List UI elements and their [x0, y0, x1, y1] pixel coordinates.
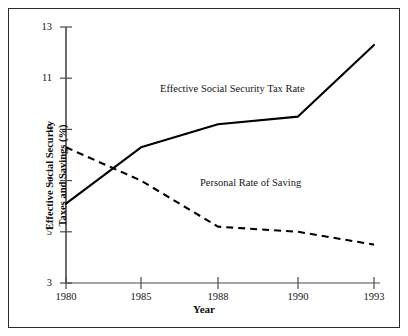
y-tick-label-3: 3: [34, 278, 52, 289]
x-tick-label-1980: 1980: [56, 292, 77, 303]
chart-figure: 13 11 9 7 5 3 1980 1985 1988 1990 1993 E…: [0, 0, 408, 336]
x-tick-label-1993: 1993: [364, 292, 385, 303]
x-axis-title: Year: [0, 303, 408, 315]
annotation-personal-rate-of-saving: Personal Rate of Saving: [200, 178, 301, 189]
series-line-personal-rate-of-saving: [66, 147, 374, 244]
annotation-effective-social-security-tax-rate: Effective Social Security Tax Rate: [160, 84, 305, 95]
y-axis-title-line-2: Taxes and Savings (%): [56, 76, 69, 276]
x-tick-label-1990: 1990: [288, 292, 309, 303]
y-axis-title: Effective Social Security Taxes and Savi…: [44, 76, 69, 276]
y-axis-title-line-1: Effective Social Security: [44, 76, 57, 276]
y-tick-label-13: 13: [34, 22, 52, 33]
x-tick-label-1985: 1985: [131, 292, 152, 303]
x-tick-label-1988: 1988: [208, 292, 229, 303]
